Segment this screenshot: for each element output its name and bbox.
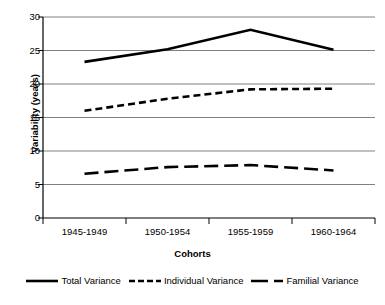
series-line-individual-variance	[85, 89, 334, 111]
legend-label: Total Variance	[61, 276, 121, 286]
x-tick-label: 1955-1959	[209, 226, 292, 237]
legend-label: Individual Variance	[164, 276, 244, 286]
x-tick-label: 1945-1949	[43, 226, 126, 237]
solid-line-swatch	[26, 276, 58, 286]
x-axis-ticks	[43, 218, 375, 224]
series-line-familial-variance	[85, 165, 334, 174]
legend-label: Familial Variance	[286, 276, 358, 286]
legend-item-total-variance: Total Variance	[26, 276, 121, 286]
y-axis-ticks	[38, 17, 43, 218]
legend-item-familial-variance: Familial Variance	[251, 276, 358, 286]
gridlines	[43, 17, 375, 185]
x-axis-title: Cohorts	[0, 248, 385, 259]
legend-item-individual-variance: Individual Variance	[129, 276, 244, 286]
dashed-line-swatch	[129, 276, 161, 286]
x-tick-label: 1960-1964	[292, 226, 375, 237]
plot-area	[0, 0, 385, 305]
line-chart: Variability (years) 30 25 20 15 10 5 0	[0, 0, 385, 305]
series-line-total-variance	[85, 30, 334, 62]
dash-dot-line-swatch	[251, 276, 283, 286]
x-tick-label: 1950-1954	[126, 226, 209, 237]
chart-legend: Total Variance Individual Variance Famil…	[0, 276, 385, 286]
